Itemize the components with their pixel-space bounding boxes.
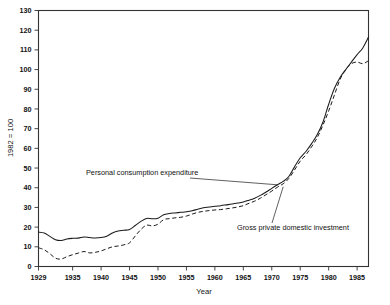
y-tick-label: 50 <box>24 164 32 173</box>
annotation-gross-private-domestic-investment: Gross private domestic investment <box>237 223 349 232</box>
line-chart: 0102030405060708090100110120130 19291935… <box>0 0 390 305</box>
series-line-personal-consumption-expenditure <box>39 37 369 240</box>
y-tick-label: 100 <box>20 65 32 74</box>
x-tick-label: 1945 <box>122 273 138 282</box>
y-tick-label: 20 <box>24 223 32 232</box>
x-axis-tick-marks <box>39 267 358 271</box>
x-tick-label: 1960 <box>207 273 223 282</box>
x-tick-label: 1965 <box>235 273 251 282</box>
chart-container: 0102030405060708090100110120130 19291935… <box>0 0 390 305</box>
annotation-personal-consumption-expenditure: Personal consumption expenditure <box>86 168 198 177</box>
x-axis-title: Year <box>196 287 212 296</box>
y-tick-label: 0 <box>28 262 32 271</box>
y-tick-label: 60 <box>24 144 32 153</box>
y-tick-label: 30 <box>24 203 32 212</box>
y-tick-label: 110 <box>20 45 32 54</box>
x-tick-label: 1985 <box>349 273 365 282</box>
x-tick-label: 1935 <box>65 273 81 282</box>
x-tick-label: 1975 <box>292 273 308 282</box>
y-tick-label: 90 <box>24 85 32 94</box>
y-tick-label: 10 <box>24 242 32 251</box>
x-axis-tick-labels: 1929193519401945195019551960196519701975… <box>31 273 366 282</box>
x-tick-label: 1970 <box>264 273 280 282</box>
y-axis-tick-labels: 0102030405060708090100110120130 <box>20 6 32 271</box>
x-tick-label: 1980 <box>321 273 337 282</box>
annotation-leader-line-gross-private-investment <box>272 187 283 223</box>
y-tick-label: 130 <box>20 6 32 15</box>
annotation-leader-line-personal-consumption <box>190 178 278 185</box>
y-tick-label: 40 <box>24 183 32 192</box>
y-axis-tick-marks <box>35 11 39 267</box>
x-tick-label: 1950 <box>150 273 166 282</box>
x-tick-label: 1955 <box>178 273 194 282</box>
y-tick-label: 70 <box>24 124 32 133</box>
x-tick-label: 1940 <box>93 273 109 282</box>
y-tick-label: 80 <box>24 105 32 114</box>
x-tick-label: 1929 <box>31 273 47 282</box>
y-axis-title: 1982 = 100 <box>6 119 15 157</box>
y-tick-label: 120 <box>20 26 32 35</box>
